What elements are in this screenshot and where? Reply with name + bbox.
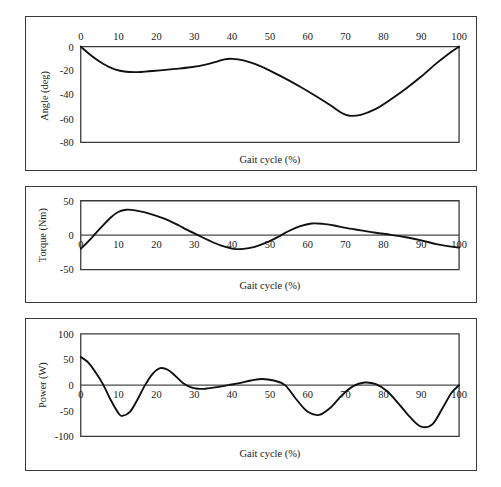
power-xtick-90: 90 [416,389,426,400]
angle-xtick-10: 10 [113,31,123,42]
angle-xtick-90: 90 [416,31,426,42]
power-xtick-50: 50 [265,389,275,400]
angle-axis-frame [81,47,459,143]
torque-ytick-0: 0 [69,230,74,241]
chart-panel-angle: 0 10 20 30 40 50 60 70 80 90 100 0 -20 -… [25,16,477,171]
power-xtick-30: 30 [189,389,199,400]
torque-ytick-labels: 50 0 -50 [60,196,74,276]
angle-x-axis-title: Gait cycle (%) [239,154,300,166]
angle-ytick-m20: -20 [60,65,74,76]
power-xtick-40: 40 [227,389,237,400]
power-y-axis-title: Power (W) [37,362,49,408]
power-ytick-labels: 100 50 0 -50 -100 [55,329,74,443]
power-x-axis-title: Gait cycle (%) [239,448,300,460]
torque-plot-svg: 0 10 20 30 40 50 60 70 80 90 100 50 0 -5… [26,187,476,302]
gait-biomechanics-figure: 0 10 20 30 40 50 60 70 80 90 100 0 -20 -… [0,0,501,487]
torque-xtick-20: 20 [151,239,161,250]
angle-xtick-70: 70 [340,31,350,42]
angle-xtick-80: 80 [378,31,388,42]
power-ytick-m100: -100 [55,431,74,442]
torque-ytick-m50: -50 [60,265,74,276]
angle-ytick-m40: -40 [60,89,74,100]
power-xtick-60: 60 [303,389,313,400]
angle-ytick-m60: -60 [60,114,74,125]
angle-y-axis-title: Angle (deg) [39,71,51,121]
power-xtick-20: 20 [151,389,161,400]
torque-ytick-50: 50 [63,196,73,207]
power-ytick-m50: -50 [60,406,74,417]
power-plot-svg: 0 10 20 30 40 50 60 70 80 90 100 100 50 … [26,319,476,470]
torque-xtick-80: 80 [378,239,388,250]
angle-xtick-50: 50 [265,31,275,42]
power-ytick-100: 100 [58,329,74,340]
power-xtick-labels: 0 10 20 30 40 50 60 70 80 90 100 [78,389,467,400]
torque-xtick-60: 60 [303,239,313,250]
angle-ytick-0: 0 [69,42,74,53]
angle-ytick-m80: -80 [60,137,74,148]
torque-x-axis-title: Gait cycle (%) [239,280,300,292]
angle-xtick-labels: 0 10 20 30 40 50 60 70 80 90 100 [78,31,467,42]
chart-panel-torque: 0 10 20 30 40 50 60 70 80 90 100 50 0 -5… [25,186,477,303]
chart-panel-power: 0 10 20 30 40 50 60 70 80 90 100 100 50 … [25,318,477,471]
torque-y-axis-title: Torque (Nm) [37,208,49,262]
torque-xtick-30: 30 [189,239,199,250]
angle-data-curve [81,47,459,116]
angle-xtick-60: 60 [303,31,313,42]
angle-xtick-100: 100 [451,31,467,42]
angle-xtick-40: 40 [227,31,237,42]
angle-xtick-0: 0 [78,31,83,42]
power-ytick-50: 50 [63,354,73,365]
torque-xtick-10: 10 [113,239,123,250]
angle-ytick-labels: 0 -20 -40 -60 -80 [60,42,74,149]
angle-xtick-20: 20 [151,31,161,42]
torque-xtick-70: 70 [340,239,350,250]
power-ytick-0: 0 [69,380,74,391]
power-xtick-10: 10 [113,389,123,400]
angle-xtick-30: 30 [189,31,199,42]
angle-plot-svg: 0 10 20 30 40 50 60 70 80 90 100 0 -20 -… [26,17,476,170]
power-xtick-0: 0 [78,389,83,400]
